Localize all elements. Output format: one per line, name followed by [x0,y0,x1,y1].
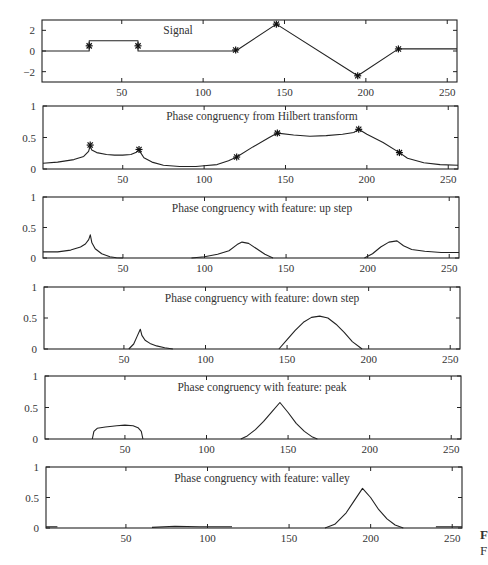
x-tick-label: 100 [199,532,216,544]
x-tick-label: 150 [276,86,293,98]
x-tick-label: 200 [361,443,378,455]
x-tick-label: 150 [280,443,297,455]
series-line-6-3 [325,488,403,528]
x-tick-label: 150 [278,262,295,274]
x-tick-label: 50 [117,173,129,185]
series-line-3-2 [192,242,274,258]
y-tick-label: 1 [34,461,40,473]
asterisk-marker [232,46,239,53]
y-tick-label: 0.5 [24,402,38,414]
y-tick-label: 1 [31,100,37,112]
series-line-3-3 [364,241,459,258]
y-tick-label: 0 [30,45,36,57]
x-tick-label: 50 [118,353,130,365]
panel-title-4: Phase congruency with feature: down step [165,292,360,305]
y-tick-label: 0.5 [23,312,37,324]
asterisk-marker [354,72,361,79]
y-tick-label: 0 [34,522,40,534]
x-tick-label: 100 [195,86,212,98]
x-tick-label: 100 [196,262,213,274]
asterisk-marker [395,45,402,52]
y-tick-label: 0.5 [25,492,39,504]
series-line-5-1 [92,425,143,439]
y-tick-label: 0 [31,163,37,175]
asterisk-marker [233,154,240,161]
asterisk-marker [274,130,281,137]
x-tick-label: 50 [117,262,129,274]
y-tick-label: 0.5 [22,222,36,234]
x-tick-label: 200 [362,532,379,544]
x-tick-label: 150 [279,353,296,365]
x-tick-label: 50 [116,86,128,98]
asterisk-marker [87,142,94,149]
y-tick-label: 1 [33,370,39,382]
panel-title-5: Phase congruency with feature: peak [177,381,346,394]
asterisk-marker [86,42,93,49]
y-tick-label: 1 [32,281,38,293]
x-tick-label: 250 [442,353,459,365]
asterisk-marker [136,146,143,153]
x-tick-label: 100 [197,353,214,365]
caption-fragment-1: F [480,527,488,543]
y-tick-label: 2 [30,24,36,36]
x-tick-label: 50 [119,443,131,455]
series-line-1-1 [42,24,457,76]
y-tick-label: 0 [32,343,38,355]
panel-title-6: Phase congruency with feature: valley [174,472,350,485]
x-tick-label: 150 [277,173,294,185]
y-tick-label: 0 [31,252,37,264]
asterisk-marker [273,21,280,28]
x-tick-label: 200 [359,173,376,185]
x-tick-label: 100 [198,443,215,455]
x-tick-label: 200 [360,353,377,365]
x-tick-label: 250 [440,173,457,185]
series-line-6-2 [152,526,232,527]
x-tick-label: 50 [120,532,132,544]
series-line-4-2 [279,316,362,349]
caption-fragment-2: F [480,543,487,559]
panel-title-1: Signal [163,24,192,37]
y-tick-label: 0 [33,433,39,445]
y-tick-label: 0.5 [22,132,36,144]
x-tick-label: 200 [358,86,375,98]
y-tick-label: 1 [31,191,37,203]
series-line-2-1 [43,129,458,166]
x-tick-label: 250 [443,443,460,455]
asterisk-marker [355,126,362,133]
y-tick-label: −2 [23,66,35,78]
asterisk-marker [396,149,403,156]
x-tick-label: 200 [359,262,376,274]
x-tick-label: 100 [196,173,213,185]
x-tick-label: 250 [444,532,461,544]
panel-title-3: Phase congruency with feature: up step [172,202,353,215]
series-line-4-1 [129,329,173,349]
panel-title-2: Phase congruency from Hilbert transform [166,110,358,123]
x-tick-label: 250 [439,86,456,98]
series-line-5-2 [241,403,318,440]
x-tick-label: 250 [441,262,458,274]
series-line-3-1 [43,235,123,258]
x-tick-label: 150 [281,532,298,544]
asterisk-marker [135,42,142,49]
